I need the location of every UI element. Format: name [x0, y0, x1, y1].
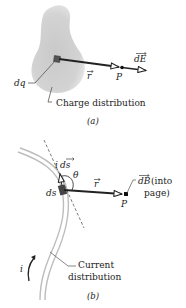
charge-distribution-blob: [32, 5, 85, 93]
panel-b-caption: (b): [87, 291, 99, 301]
current-distribution-label-1: Current: [78, 260, 114, 270]
diagram-canvas: dq r P dE Charge distribution (a): [0, 0, 186, 308]
r-label: r: [87, 71, 92, 81]
r-vector-b: [64, 190, 122, 194]
p-label-b: P: [120, 199, 128, 209]
db-label: dB: [138, 176, 151, 186]
db-note-line1: (into: [151, 176, 172, 186]
current-wire-outer: [18, 152, 64, 300]
de-label: dE: [134, 54, 147, 64]
panel-b: i ds θ ds r P dB (into page) i Current d…: [18, 140, 172, 301]
current-direction-arrow: [28, 258, 34, 281]
r-label-b: r: [94, 179, 99, 189]
tangent-dashed-line: [44, 140, 84, 228]
current-distribution-label-2: distribution: [68, 272, 122, 282]
charge-distribution-label: Charge distribution: [56, 98, 146, 108]
theta-label: θ: [73, 170, 79, 180]
db-note-line2: page): [144, 188, 170, 198]
panel-a-caption: (a): [87, 116, 99, 126]
de-vector: [122, 68, 146, 71]
p-label: P: [115, 72, 123, 82]
ds-label: ds: [46, 188, 57, 198]
current-i-label: i: [20, 264, 23, 274]
dq-label: dq: [14, 78, 26, 88]
panel-a: dq r P dE Charge distribution (a): [14, 5, 147, 126]
ids-label-i: i: [55, 160, 58, 170]
ids-label-ds: ds: [60, 160, 71, 170]
db-leader-line: [127, 180, 136, 193]
point-p-marker: [120, 66, 124, 70]
